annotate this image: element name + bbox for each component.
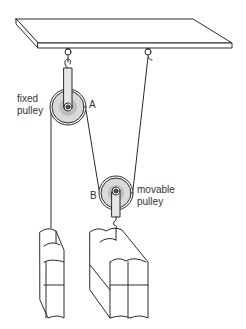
ceiling-beam xyxy=(16,19,232,48)
pulley-diagram: fixed pulley A B movable pulley xyxy=(0,0,246,329)
movable-pulley-label-line1: movable xyxy=(137,184,175,195)
left-book-load xyxy=(40,229,64,318)
right-book-load xyxy=(90,228,148,318)
point-a-label: A xyxy=(89,99,96,110)
movable-pulley xyxy=(99,176,133,228)
fixed-pulley xyxy=(50,68,86,125)
movable-pulley-label-line2: pulley xyxy=(137,196,163,207)
fixed-pulley-label-line2: pulley xyxy=(17,105,43,116)
left-ceiling-hook-icon xyxy=(65,48,71,68)
middle-rope xyxy=(86,110,99,190)
fixed-pulley-label-line1: fixed xyxy=(17,93,38,104)
point-b-label: B xyxy=(90,190,97,201)
right-rope xyxy=(133,57,148,190)
right-ceiling-hook-icon xyxy=(145,48,152,60)
